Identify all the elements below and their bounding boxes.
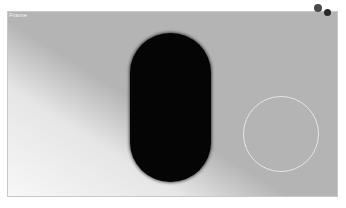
frame-label: Frame [9, 12, 27, 18]
black-capsule-shape [130, 33, 211, 182]
marker-dot [314, 4, 322, 12]
target-ring [243, 96, 319, 172]
marker-dot [324, 9, 331, 16]
camera-viewport[interactable]: Frame [7, 11, 338, 197]
